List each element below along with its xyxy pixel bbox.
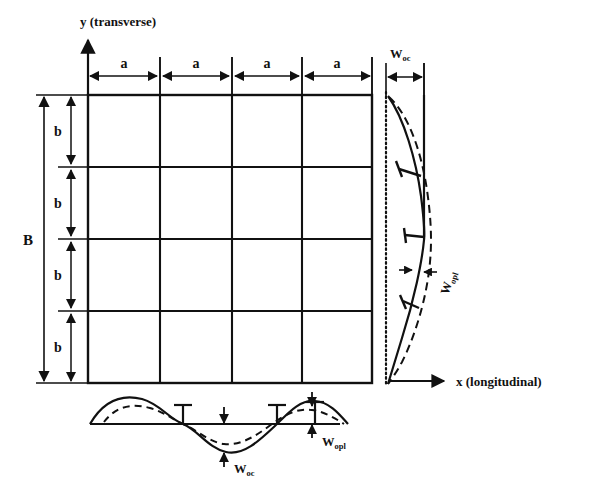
figure-root: y (transverse) a a a a bbox=[0, 0, 598, 488]
x-axis-label: x (longitudinal) bbox=[456, 374, 542, 389]
b-label-3: b bbox=[54, 268, 62, 283]
wopl-subscript-side: opl bbox=[447, 271, 460, 285]
wopl-label-bottom: Wopl bbox=[322, 435, 346, 451]
a-label-3: a bbox=[264, 56, 271, 71]
b-label-4: b bbox=[54, 340, 62, 355]
woc-symbol-bottom: W bbox=[234, 462, 247, 476]
woc-label-bottom: Woc bbox=[234, 462, 255, 478]
bottom-tick-marker-2 bbox=[268, 405, 286, 424]
wopl-label-side: Wopl bbox=[438, 269, 461, 297]
side-tick-marker-2 bbox=[404, 228, 424, 243]
woc-subscript-bottom: oc bbox=[247, 468, 255, 478]
x-axis-group: x (longitudinal) bbox=[390, 374, 542, 389]
b-dimension-chain: b b b b B bbox=[23, 95, 92, 383]
y-axis-group: y (transverse) bbox=[80, 14, 156, 95]
side-tick-2-stem bbox=[405, 235, 424, 237]
y-axis-label: y (transverse) bbox=[80, 14, 156, 29]
side-tick-marker-3 bbox=[400, 295, 419, 309]
panel-deflection-diagram: y (transverse) a a a a bbox=[0, 0, 598, 488]
bottom-deflection-profile: Woc Wopl bbox=[90, 392, 348, 478]
side-tick-2-head bbox=[404, 228, 406, 243]
wopl-symbol-bottom: W bbox=[322, 435, 335, 449]
wopl-subscript-bottom: opl bbox=[335, 441, 347, 451]
b-label-1: b bbox=[54, 124, 62, 139]
woc-symbol-side: W bbox=[390, 47, 403, 61]
a-label-2: a bbox=[193, 56, 200, 71]
side-deflection-profile: Woc Wopl bbox=[386, 47, 461, 385]
woc-subscript-side: oc bbox=[403, 53, 411, 63]
a-label-4: a bbox=[334, 56, 341, 71]
b-label-2: b bbox=[54, 196, 62, 211]
woc-label-side: Woc bbox=[390, 47, 411, 63]
a-dimension-chain: a a a a bbox=[88, 56, 372, 96]
B-label: B bbox=[23, 232, 33, 248]
panel-grid bbox=[88, 95, 372, 383]
a-label-1: a bbox=[121, 56, 128, 71]
